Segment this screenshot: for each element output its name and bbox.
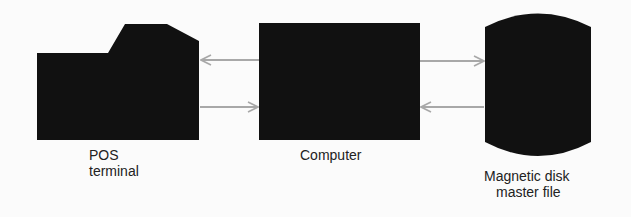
magnetic-disk-shape xyxy=(485,14,591,157)
pos-label-line2: terminal xyxy=(89,163,139,179)
disk-label-line1: Magnetic disk xyxy=(484,168,570,184)
computer-shape xyxy=(259,23,420,140)
computer-label: Computer xyxy=(300,147,361,163)
pos-label-line1: POS xyxy=(89,147,139,163)
disk-label-line2: master file xyxy=(484,184,570,200)
pos-terminal-label: POS terminal xyxy=(89,147,139,179)
pos-terminal-shape xyxy=(37,24,199,140)
disk-label: Magnetic disk master file xyxy=(484,168,570,200)
